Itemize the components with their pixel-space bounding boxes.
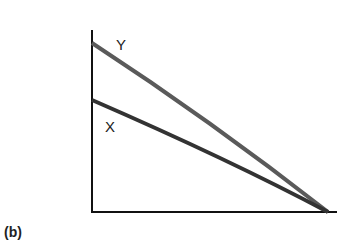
panel-label: (b): [4, 224, 22, 240]
curve-x: [92, 100, 328, 212]
diagram-canvas: [0, 0, 344, 244]
figure-b: Y X (b): [0, 0, 344, 244]
curve-label-x: X: [105, 118, 115, 135]
curve-y: [92, 43, 328, 212]
curve-label-y: Y: [116, 36, 126, 53]
